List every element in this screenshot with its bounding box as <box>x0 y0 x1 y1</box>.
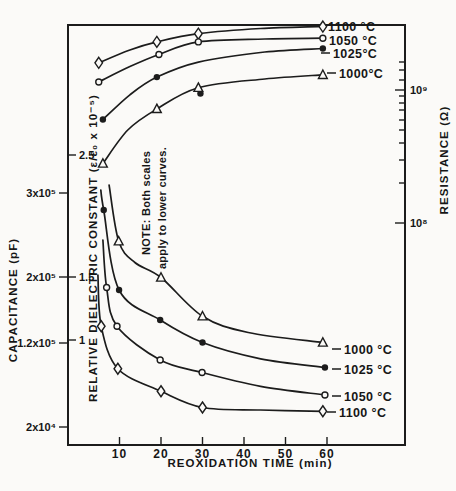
curve-label-resistance-1000: 1000°C <box>339 67 383 81</box>
diamond-marker-icon <box>199 402 207 413</box>
dielectric-tick-label: 1 <box>79 334 85 346</box>
dielectric-tick-label: 2.5 <box>79 149 94 161</box>
note-line2: apply to lower curves. <box>156 147 168 269</box>
curve-label-resistance-1050: 1050 °C <box>329 34 377 48</box>
open-circle-marker-icon <box>322 392 328 398</box>
curve-label-dielectric-1025: 1025 °C <box>344 363 392 377</box>
curve-resistance-1000 <box>103 75 323 164</box>
generated-chart-content: 1020304050603x10⁵2x10⁵1.2x10⁵2x10⁴2.51.5… <box>17 20 427 462</box>
capacitance-tick-label: 2x10⁵ <box>26 271 56 283</box>
dielectric-axis-title: RELATIVE DIELECTRIC CONSTANT (ε/ε₀ x 10⁻… <box>87 94 99 402</box>
diamond-marker-icon <box>153 36 161 47</box>
resistance-tick-label: 10⁹ <box>410 84 427 96</box>
triangle-marker-icon <box>198 311 207 319</box>
curve-label-resistance-1100: 1100 °C <box>328 20 375 34</box>
curve-label-resistance-1025: 1025°C <box>333 47 377 61</box>
diamond-marker-icon <box>157 386 165 397</box>
diamond-marker-icon <box>195 28 203 39</box>
capacitance-tick-label: 1.2x10⁵ <box>17 337 56 349</box>
open-circle-marker-icon <box>104 285 110 291</box>
diamond-marker-icon <box>319 406 327 417</box>
resistance-tick-label: 10⁸ <box>410 217 427 229</box>
triangle-marker-icon <box>114 236 123 244</box>
filled-circle-marker-icon <box>322 364 328 370</box>
triangle-marker-icon <box>157 273 166 281</box>
chart-canvas: CAPACITANCE (pF) RELATIVE DIELECTRIC CON… <box>0 0 456 491</box>
open-circle-marker-icon <box>114 323 120 329</box>
x-tick-label: 10 <box>112 447 127 461</box>
filled-circle-marker-icon <box>154 74 160 80</box>
note-line1: NOTE: Both scales <box>140 151 152 255</box>
diamond-marker-icon <box>95 57 103 68</box>
dielectric-tick-label: 1.5 <box>79 271 94 283</box>
x-tick-label: 30 <box>195 447 210 461</box>
capacitance-tick-label: 3x10⁵ <box>26 187 56 199</box>
diamond-marker-icon <box>319 21 327 32</box>
x-tick-label: 60 <box>319 447 334 461</box>
curve-resistance-1100 <box>99 27 323 63</box>
x-tick-label: 40 <box>236 447 251 461</box>
filled-circle-marker-icon <box>157 317 163 323</box>
open-circle-marker-icon <box>156 51 162 57</box>
open-circle-marker-icon <box>320 35 326 41</box>
capacitance-tick-label: 2x10⁴ <box>26 421 56 433</box>
curve-label-dielectric-1100: 1100 °C <box>339 406 386 420</box>
curve-label-dielectric-1050: 1050 °C <box>344 390 392 404</box>
curve-label-dielectric-1000: 1000 °C <box>344 343 392 357</box>
filled-circle-marker-icon <box>199 339 205 345</box>
triangle-marker-icon <box>152 104 161 112</box>
x-tick-label: 50 <box>278 447 293 461</box>
filled-circle-marker-icon <box>100 116 106 122</box>
x-tick-label: 20 <box>153 447 168 461</box>
open-circle-marker-icon <box>199 370 205 376</box>
open-circle-marker-icon <box>157 357 163 363</box>
scanned-figure: CAPACITANCE (pF) RELATIVE DIELECTRIC CON… <box>0 0 456 491</box>
curve-dielectric-1025 <box>101 190 325 368</box>
filled-circle-marker-icon <box>116 287 122 293</box>
filled-circle-marker-icon <box>101 207 107 213</box>
open-circle-marker-icon <box>96 79 102 85</box>
resistance-axis-title: RESISTANCE (Ω) <box>438 106 450 215</box>
filled-circle-marker-icon <box>320 45 326 51</box>
open-circle-marker-icon <box>195 39 201 45</box>
